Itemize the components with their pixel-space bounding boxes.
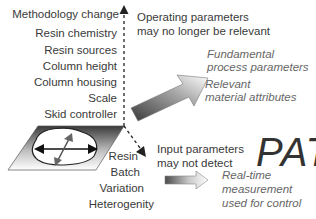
operating-note-line2: may no longer be relevant <box>137 24 270 38</box>
realtime-note-line2: measurement <box>222 182 292 196</box>
realtime-note-line1: Real-time <box>222 168 271 182</box>
fundamental-label-line2: process parameters <box>207 60 309 74</box>
label-column-height: Column height <box>43 59 117 73</box>
label-batch: Batch <box>111 165 140 179</box>
label-scale: Scale <box>88 91 117 105</box>
label-variation: Variation <box>99 181 144 195</box>
operating-note-line1: Operating parameters <box>137 10 249 24</box>
label-column-housing: Column housing <box>34 75 117 89</box>
label-methodology-change: Methodology change <box>12 7 119 21</box>
label-heterogenity: Heterogenity <box>89 197 154 211</box>
fundamental-label-line1: Fundamental <box>207 47 274 61</box>
label-resin-sources: Resin sources <box>44 43 117 57</box>
label-skid-controller: Skid controller <box>44 107 117 121</box>
big-gradient-arrow <box>131 75 208 121</box>
realtime-arrow <box>165 171 208 189</box>
input-note-line1: Input parameters <box>157 142 244 156</box>
label-resin-chemistry: Resin chemistry <box>35 26 117 40</box>
pat-title: PAT <box>256 132 316 172</box>
relevant-label-line2: material attributes <box>205 90 296 104</box>
realtime-note-line3: used for control <box>222 196 301 210</box>
label-resin: Resin <box>109 149 138 163</box>
vertical-axis-arrow <box>120 5 129 126</box>
process-plane <box>8 126 124 170</box>
relevant-label-line1: Relevant <box>205 77 250 91</box>
